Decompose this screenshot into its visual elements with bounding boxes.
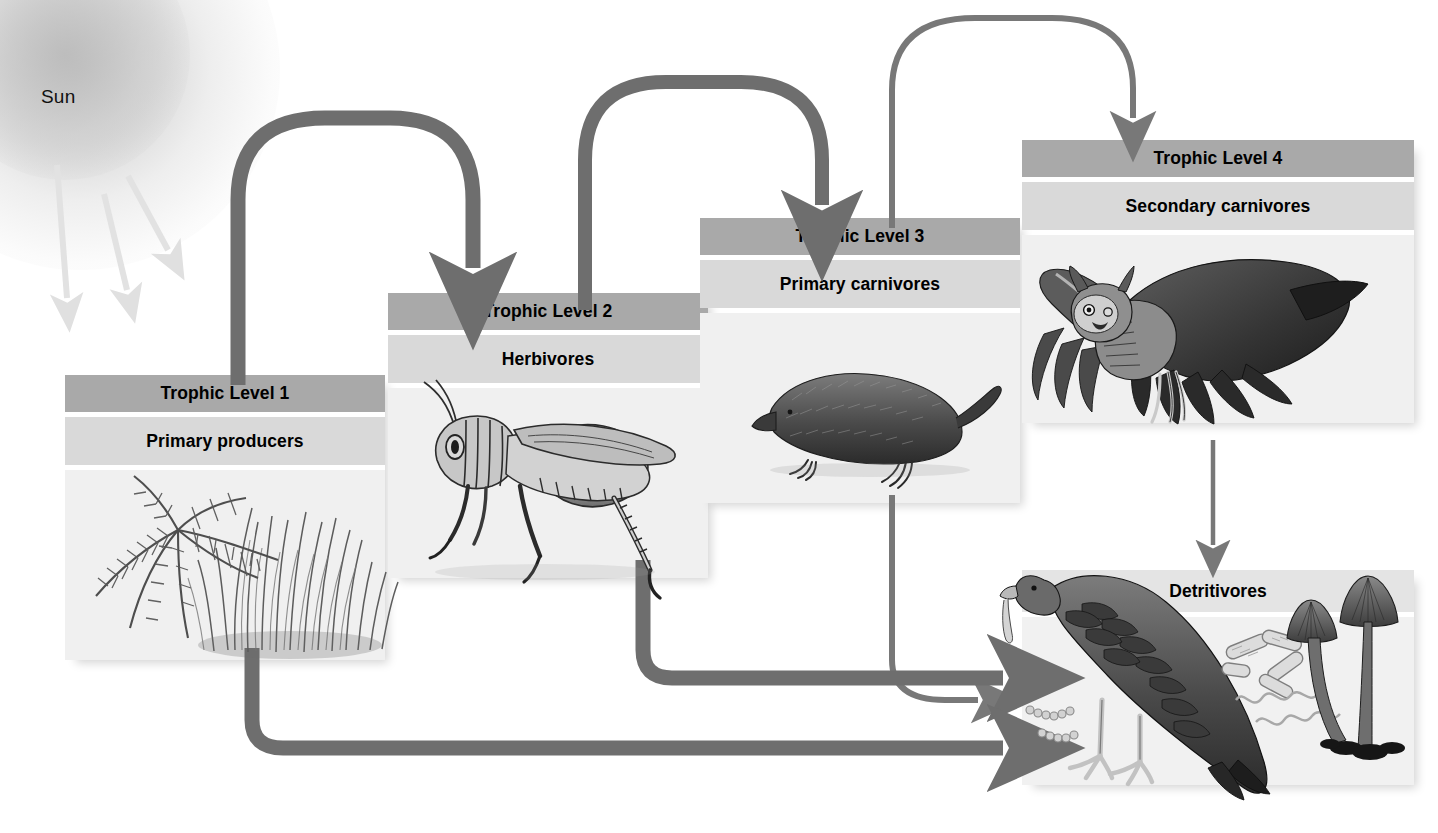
flow-arrow-level1-to-detritivores [252,648,1003,748]
trophic-level-2-header: Trophic Level 2 [388,293,708,330]
detritivores-card[interactable]: Detritivores [1022,570,1414,785]
trophic-level-2-subtitle: Herbivores [388,335,708,383]
trophic-level-3-illustration-shrew [700,313,1020,503]
trophic-level-1-subtitle: Primary producers [65,417,385,465]
sun-ray-2 [104,194,127,290]
sun-ray-1 [57,165,67,298]
sun-label: Sun [41,86,75,108]
trophic-level-4-subtitle: Secondary carnivores [1022,182,1414,230]
ecosystem-energy-flow-diagram: Sun [0,0,1438,833]
trophic-level-3-header: Trophic Level 3 [700,218,1020,255]
trophic-level-4-header: Trophic Level 4 [1022,140,1414,177]
trophic-level-4-illustration-owl [1022,235,1414,423]
sun-glow-inner [0,0,190,180]
sun-glow-outer [0,0,280,270]
detritivores-illustration-vulture-bacteria-mushrooms [1022,617,1414,785]
trophic-level-3-card[interactable]: Trophic Level 3 Primary carnivores [700,218,1020,503]
flow-arrow-level3-to-detritivores [892,495,978,700]
trophic-level-2-card[interactable]: Trophic Level 2 Herbivores [388,293,708,578]
trophic-level-4-card[interactable]: Trophic Level 4 Secondary carnivores [1022,140,1414,423]
sun-ray-3 [128,176,168,250]
trophic-level-3-subtitle: Primary carnivores [700,260,1020,308]
trophic-level-1-header: Trophic Level 1 [65,375,385,412]
detritivores-header: Detritivores [1022,570,1414,612]
trophic-level-2-illustration-grasshopper [388,388,708,578]
sun-rays [57,165,168,298]
trophic-level-1-card[interactable]: Trophic Level 1 Primary producers [65,375,385,660]
trophic-level-1-illustration-primary-producers [65,470,385,660]
